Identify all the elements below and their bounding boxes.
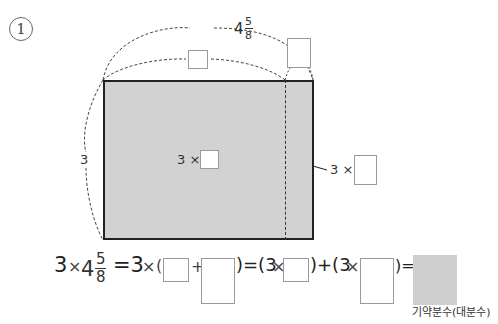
eq-times-4: × <box>346 257 359 276</box>
strip-length-answer-box[interactable] <box>287 38 311 68</box>
inner-area-answer-box[interactable] <box>200 150 219 169</box>
final-answer-box[interactable] <box>413 255 457 305</box>
eq-close-equals: )= <box>395 256 415 275</box>
eq-product-fraction-box[interactable] <box>360 258 394 304</box>
strip-area-answer-box[interactable] <box>354 155 377 185</box>
eq-times: × <box>68 257 81 276</box>
eq-product-whole-box[interactable] <box>283 258 309 282</box>
problem-number: 1 <box>9 17 33 41</box>
strip-area-label: 3 × <box>330 162 353 177</box>
eq-close-equals-open: )=(3 <box>236 254 277 275</box>
top-length-label: 4 5 8 <box>234 16 253 41</box>
inner-area-label: 3 × <box>177 152 200 167</box>
eq-mixed-number: 4 5 8 <box>81 252 106 285</box>
answer-caption: 기약분수(대분수) <box>412 303 491 319</box>
inner-length-answer-box[interactable] <box>188 50 208 69</box>
eq-close-plus-open: )+(3 <box>310 254 351 275</box>
eq-times-2: × <box>142 257 155 276</box>
eq-equals-3: =3 <box>113 253 144 277</box>
divider-dashed-line <box>285 80 286 240</box>
eq-fraction-part-box[interactable] <box>201 258 235 304</box>
eq-factor: 3 <box>54 253 67 277</box>
side-length-label: 3 <box>80 152 88 167</box>
eq-whole-part-box[interactable] <box>163 258 189 282</box>
eq-open-paren: ( <box>156 256 162 275</box>
